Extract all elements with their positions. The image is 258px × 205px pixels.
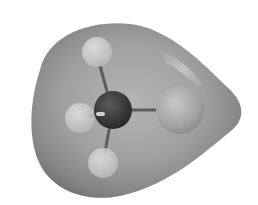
bond-stub-highlight xyxy=(96,112,105,116)
molecule-figure xyxy=(0,0,258,205)
atom-hydrogen-left xyxy=(65,103,95,133)
atom-hydrogen-top xyxy=(82,37,112,67)
atom-hydrogen-bottom xyxy=(88,148,118,178)
atom-carbon xyxy=(94,91,132,129)
atom-chlorine xyxy=(156,86,204,134)
